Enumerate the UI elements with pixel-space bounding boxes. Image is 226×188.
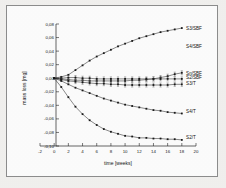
x-tick-label: 20 — [194, 149, 199, 154]
data-point-marker — [103, 83, 105, 85]
data-point-marker — [153, 78, 155, 80]
data-point-marker — [167, 84, 169, 86]
data-point-marker — [82, 90, 84, 92]
data-point-marker — [145, 35, 147, 37]
y-tick-label: 0,00 — [45, 76, 54, 81]
figure-root: 0,080,060,040,020,00-0,02-0,04-0,06-0,08… — [0, 0, 226, 188]
data-point-marker — [167, 78, 169, 80]
x-tick-label: 0 — [53, 149, 56, 154]
data-point-marker — [131, 136, 133, 138]
data-point-marker — [160, 78, 162, 80]
data-point-marker — [67, 83, 69, 85]
data-point-marker — [160, 110, 162, 112]
data-point-marker — [117, 102, 119, 104]
data-point-marker — [82, 64, 84, 66]
data-point-marker — [117, 78, 119, 80]
x-tick-label: 16 — [165, 149, 170, 154]
x-tick-label: 2 — [67, 149, 70, 154]
data-point-marker — [96, 56, 98, 58]
x-tick-label: 12 — [137, 149, 142, 154]
data-point-marker — [153, 138, 155, 140]
data-point-marker — [67, 77, 69, 79]
data-point-marker — [181, 139, 183, 141]
data-point-marker — [174, 83, 176, 85]
data-point-marker — [110, 83, 112, 85]
data-point-marker — [67, 96, 69, 98]
data-point-marker — [96, 78, 98, 80]
y-tick-label: -0,06 — [44, 116, 55, 121]
data-point-marker — [138, 37, 140, 39]
data-point-marker — [167, 111, 169, 113]
x-tick-label: 18 — [179, 149, 184, 154]
data-point-marker — [145, 78, 147, 80]
series-label-s4-t: S4/T — [186, 109, 196, 114]
data-point-marker — [181, 78, 183, 80]
data-point-marker — [124, 43, 126, 45]
x-axis-ticks: -202468101214161820 — [38, 143, 199, 154]
data-point-marker — [60, 86, 62, 88]
data-point-marker — [75, 106, 77, 108]
data-point-marker — [174, 112, 176, 114]
data-point-marker — [167, 30, 169, 32]
data-point-marker — [131, 84, 133, 86]
series-labels: S3/SBFS4/SBFSn/SBFS2/SBFS3/TS4/TS2/T — [186, 26, 202, 140]
data-point-marker — [89, 92, 91, 94]
data-point-marker — [160, 31, 162, 33]
data-point-marker — [67, 80, 69, 82]
series-label-s4-sbf: S4/SBF — [186, 44, 202, 49]
data-point-marker — [138, 106, 140, 108]
y-tick-label: 0,04 — [45, 49, 54, 54]
data-point-marker — [117, 83, 119, 85]
data-point-marker — [96, 95, 98, 97]
data-point-marker — [181, 27, 183, 29]
data-point-marker — [110, 100, 112, 102]
series-label-s2-t: S2/T — [186, 135, 196, 140]
data-point-marker — [181, 83, 183, 85]
y-tick-label: 0,06 — [45, 35, 54, 40]
x-tick-label: -2 — [38, 149, 42, 154]
data-point-marker — [110, 131, 112, 133]
data-point-marker — [181, 72, 183, 74]
data-point-marker — [145, 108, 147, 110]
data-point-marker — [138, 84, 140, 86]
mass-loss-chart: 0,080,060,040,020,00-0,02-0,04-0,06-0,08… — [0, 0, 226, 188]
data-point-marker — [124, 84, 126, 86]
data-point-marker — [82, 113, 84, 115]
data-point-marker — [174, 29, 176, 31]
x-tick-label: 14 — [151, 149, 156, 154]
data-point-marker — [138, 78, 140, 80]
y-tick-label: -0,04 — [44, 103, 55, 108]
x-tick-label: 8 — [110, 149, 113, 154]
data-point-marker — [89, 119, 91, 121]
x-axis-title: time [weeks] — [104, 160, 132, 166]
data-point-marker — [131, 78, 133, 80]
series-line — [54, 28, 182, 78]
data-point-marker — [145, 84, 147, 86]
y-axis-title: mass loss [mg] — [21, 71, 27, 105]
y-tick-label: -0,02 — [44, 89, 55, 94]
series-line — [54, 78, 182, 140]
data-point-marker — [124, 135, 126, 137]
x-tick-label: 10 — [123, 149, 128, 154]
series-label-s2-sbf: S2/SBF — [186, 75, 202, 80]
series-label-s3-sbf: S3/SBF — [186, 26, 202, 31]
y-tick-label: 0,02 — [45, 62, 54, 67]
data-point-marker — [160, 138, 162, 140]
data-point-marker — [174, 138, 176, 140]
data-point-marker — [82, 81, 84, 83]
x-tick-label: 4 — [81, 149, 84, 154]
series-s3-sbf — [53, 27, 182, 79]
data-point-marker — [153, 109, 155, 111]
data-point-marker — [75, 69, 77, 71]
data-point-marker — [124, 104, 126, 106]
data-point-marker — [138, 137, 140, 139]
series-s2-t — [53, 77, 182, 140]
series-layer — [53, 27, 183, 141]
data-point-marker — [89, 60, 91, 62]
data-point-marker — [110, 78, 112, 80]
data-point-marker — [82, 77, 84, 79]
data-point-marker — [103, 52, 105, 54]
data-point-marker — [174, 78, 176, 80]
data-point-marker — [89, 82, 91, 84]
data-point-marker — [110, 49, 112, 51]
